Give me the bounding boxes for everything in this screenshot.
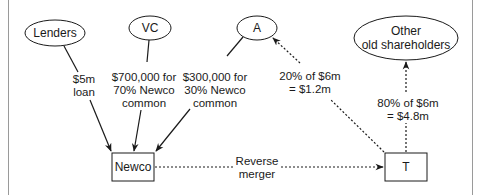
lenders-label: Lenders xyxy=(33,26,76,40)
a-to-newco-arrow xyxy=(156,109,190,151)
a-label: A xyxy=(253,21,261,35)
t-to-a-edge-label: 20% of $6m = $1.2m xyxy=(279,70,340,96)
newco-label: Newco xyxy=(115,160,152,174)
vc-to-newco-arrow xyxy=(134,110,141,151)
lenders-to-newco-arrow xyxy=(90,100,111,151)
vc-to-newco-arrow-top xyxy=(147,40,149,62)
reverse-merger-edge-label: Reverse merger xyxy=(236,155,279,181)
a-edge-label: $300,000 for 30% Newco common xyxy=(183,71,248,110)
other-label-line2: old shareholders xyxy=(362,38,451,52)
vc-edge-label: $700,000 for 70% Newco common xyxy=(112,71,177,110)
lenders-to-newco-arrow-top xyxy=(64,46,78,72)
a-to-newco-arrow-top xyxy=(227,37,243,56)
other-label-line1: Other xyxy=(391,24,421,38)
lenders-edge-label: $5m loan xyxy=(73,73,95,99)
t-to-other-edge-label: 80% of $6m = $4.8m xyxy=(377,97,438,123)
t-to-a-arrow-bottom xyxy=(330,99,384,152)
vc-label: VC xyxy=(142,21,159,35)
t-to-a-arrow xyxy=(273,38,300,63)
t-label: T xyxy=(402,160,409,174)
